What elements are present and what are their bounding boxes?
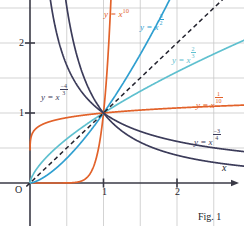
fraction-denominator: 3 — [191, 52, 196, 59]
fraction-denominator: 10 — [215, 97, 223, 104]
figure-caption: Fig. 1 — [198, 211, 221, 222]
x-axis-label: x — [222, 162, 226, 173]
curve-label-base: y = x — [140, 22, 159, 32]
curve-label-3: y = x23 — [172, 47, 196, 65]
fraction-denominator: 4 — [213, 134, 221, 141]
x-tick-label-2: 2 — [175, 186, 180, 197]
origin-label: O — [15, 184, 22, 195]
x-tick-label-1: 1 — [102, 186, 107, 197]
fraction-numerator: −4 — [60, 83, 68, 89]
curve-label-2: y = x32 — [140, 14, 164, 32]
curve-label-base: y = x — [104, 9, 123, 19]
fraction-denominator: 3 — [60, 89, 68, 96]
y-tick-label-1: 1 — [19, 107, 24, 118]
plot-canvas — [0, 0, 244, 226]
curve-label-exponent-fraction: −34 — [213, 128, 221, 141]
curve-label-4: y = x110 — [196, 92, 223, 110]
curve-label-base: y = x — [41, 92, 60, 102]
figure-power-functions: 2 1 1 2 O x Fig. 1 y = x10y = x32y = x23… — [0, 0, 244, 226]
curve-label-base: y = x — [172, 55, 191, 65]
fraction-denominator: 2 — [159, 19, 164, 26]
curve-label-5: y = x−43 — [41, 84, 68, 102]
curve-label-1: y = x10 — [104, 8, 129, 19]
curve-label-exponent-fraction: 110 — [215, 91, 223, 104]
curve-label-exponent: 10 — [123, 7, 130, 14]
curve-label-exponent-fraction: 32 — [159, 13, 164, 26]
curve-label-exponent-fraction: 23 — [191, 46, 196, 59]
curve-label-exponent-fraction: −43 — [60, 83, 68, 96]
curve-label-base: y = x — [196, 100, 215, 110]
y-tick-label-2: 2 — [19, 37, 24, 48]
curve-label-base: y = x — [194, 137, 213, 147]
curve-label-6: y = x−34 — [194, 129, 221, 147]
fraction-numerator: −3 — [213, 128, 221, 134]
grid-lines — [0, 0, 244, 226]
